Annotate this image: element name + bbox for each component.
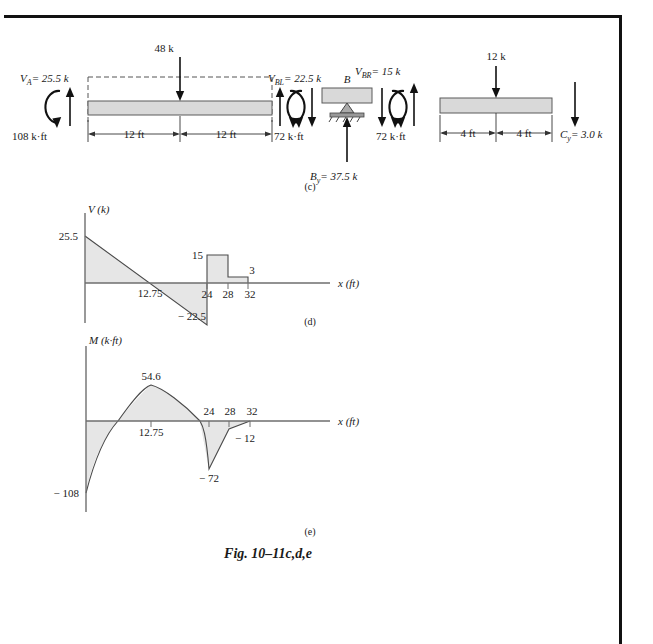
dimension-12ft-right: 12 ft xyxy=(216,128,236,140)
beam-segment-b xyxy=(322,88,372,103)
label-by: By= 37.5 k xyxy=(310,170,358,185)
shear-value-3: 3 xyxy=(249,264,255,276)
part-label-c: (c) xyxy=(304,181,315,193)
shear-vbr-arrowhead xyxy=(410,83,418,93)
label-cy: Cy= 3.0 k xyxy=(560,128,604,143)
moment-value-54-6: 54.6 xyxy=(141,370,161,382)
moment-negative-fill-24 xyxy=(200,421,209,469)
load-48k-arrowhead xyxy=(176,91,184,101)
moment-y-axis-label: M (k·ft) xyxy=(88,334,122,347)
shear-value-25-5: 25.5 xyxy=(59,230,79,242)
page-frame-top-rule xyxy=(4,15,622,18)
moment-x-axis-label: x (ft) xyxy=(337,415,359,428)
label-moment-72-right: 72 k·ft xyxy=(376,130,406,142)
free-body-diagram-c: VA= 25.5 k 108 k·ft 48 k 12 ft 12 ft VBL… xyxy=(0,30,653,205)
shear-step-area-15 xyxy=(207,255,228,283)
label-vbr: VBR= 15 k xyxy=(355,65,401,80)
dimension-4ft-right: 4 ft xyxy=(517,127,532,139)
moment-value-minus-12: − 12 xyxy=(235,432,255,444)
moment-tick-label-28: 28 xyxy=(225,405,237,417)
moment-tick-label-32: 32 xyxy=(247,405,258,417)
label-moment-72-left: 72 k·ft xyxy=(274,130,304,142)
figure-page: VA= 25.5 k 108 k·ft 48 k 12 ft 12 ft VBL… xyxy=(0,0,653,644)
label-vbl: VBL= 22.5 k xyxy=(268,72,322,87)
beam-segment-bc xyxy=(440,98,552,113)
beam-segment-ab xyxy=(88,101,272,115)
dimension-extension-lines-right xyxy=(440,113,552,142)
pin-support-triangle xyxy=(340,103,354,113)
dimension-4ft-left: 4 ft xyxy=(461,127,476,139)
joint-left-shear-arrowhead xyxy=(308,117,316,127)
shear-x-axis-label: x (ft) xyxy=(337,277,359,290)
shear-tick-label-24: 24 xyxy=(202,288,214,300)
label-load-12k: 12 k xyxy=(486,50,506,62)
label-load-48k: 48 k xyxy=(154,42,174,54)
label-joint-b: B xyxy=(344,73,351,85)
shear-step-area-3 xyxy=(228,277,248,283)
figure-caption: Fig. 10–11c,d,e xyxy=(223,546,312,561)
reaction-cy-arrowhead xyxy=(571,117,579,127)
dimension-12ft-left: 12 ft xyxy=(124,128,144,140)
support-ground-bar xyxy=(330,113,364,117)
dimension-extension-lines-left xyxy=(88,116,272,142)
reaction-by-arrowhead xyxy=(343,117,351,127)
part-label-e: (e) xyxy=(304,526,315,538)
reaction-va-arrowhead xyxy=(66,87,74,97)
shear-diagram-d: V (k) x (ft) 25.5 12.75 − 22.5 15 3 24 2… xyxy=(0,205,460,330)
shear-tick-label-32: 32 xyxy=(245,288,256,300)
load-12k-arrowhead xyxy=(492,88,500,98)
shear-y-axis-label: V (k) xyxy=(88,205,110,216)
shear-vbl-arrowhead xyxy=(276,87,284,97)
shear-value-minus-22-5: − 22.5 xyxy=(178,310,207,322)
shear-zero-crossing-12-75: 12.75 xyxy=(138,287,163,299)
moment-negative-area-right xyxy=(209,421,250,469)
part-label-d: (d) xyxy=(304,316,316,328)
moment-value-minus-108: − 108 xyxy=(54,487,80,499)
moment-negative-area-left xyxy=(86,421,118,493)
moment-zero-crossing-12-75: 12.75 xyxy=(139,426,164,438)
moment-value-minus-72: − 72 xyxy=(199,472,219,484)
shear-value-15: 15 xyxy=(192,249,204,261)
label-va: VA= 25.5 k xyxy=(20,72,70,87)
ground-hatching xyxy=(329,117,360,122)
label-moment-108: 108 k·ft xyxy=(12,130,47,142)
shear-tick-label-28: 28 xyxy=(223,288,235,300)
joint-right-shear-arrowhead xyxy=(378,117,386,127)
moment-positive-area xyxy=(118,385,200,421)
moment-diagram-e: M (k·ft) x (ft) 54.6 12.75 − 108 − 72 − … xyxy=(0,330,460,620)
moment-tick-label-24: 24 xyxy=(204,405,216,417)
